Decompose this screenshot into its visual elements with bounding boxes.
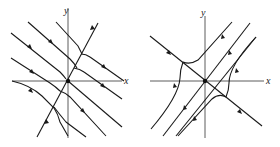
- left-trajectory: [28, 22, 77, 68]
- left-trajectory: [12, 81, 68, 136]
- left-trajectory: [11, 58, 60, 91]
- arrow-icon: [173, 83, 177, 88]
- left-equilibrium-point: [66, 79, 70, 83]
- right-trajectory: [151, 62, 183, 129]
- right-y-label: y: [200, 7, 206, 18]
- left-trajectory: [11, 33, 66, 79]
- arrow-icon: [221, 34, 225, 39]
- left-y-label: y: [63, 5, 69, 16]
- right-trajectory: [226, 37, 256, 97]
- left-phase-portrait: x y: [11, 5, 129, 138]
- left-trajectory: [56, 22, 82, 54]
- left-trajectory: [54, 107, 86, 137]
- left-trajectory: [60, 91, 106, 136]
- right-trajectory: [183, 22, 232, 63]
- right-trajectory: [178, 95, 226, 136]
- phase-portrait-figure: x y x y: [0, 0, 280, 147]
- arrow-icon: [235, 68, 239, 73]
- left-trajectory: [74, 68, 122, 99]
- right-phase-portrait: x y: [150, 7, 271, 138]
- right-x-label: x: [265, 75, 271, 86]
- right-equilibrium-point: [203, 79, 207, 83]
